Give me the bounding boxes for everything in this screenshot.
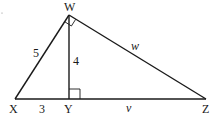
segment-label-yz: v xyxy=(126,101,132,115)
segment-label-wy: 4 xyxy=(73,54,79,68)
vertex-label-x: X xyxy=(9,102,18,116)
segment-label-wz: w xyxy=(131,39,139,53)
vertex-label-w: W xyxy=(64,0,76,14)
segment-label-wx: 5 xyxy=(33,46,39,60)
segment-label-xy: 3 xyxy=(39,102,45,116)
scan-dot xyxy=(1,12,2,13)
vertex-label-y: Y xyxy=(64,102,73,116)
vertex-label-z: Z xyxy=(202,102,209,116)
segment-wz xyxy=(69,15,206,99)
right-angle-mark-y xyxy=(69,89,80,99)
segment-wx xyxy=(15,15,69,99)
triangle-diagram: W X Y Z 5 4 w 3 v xyxy=(0,0,216,121)
